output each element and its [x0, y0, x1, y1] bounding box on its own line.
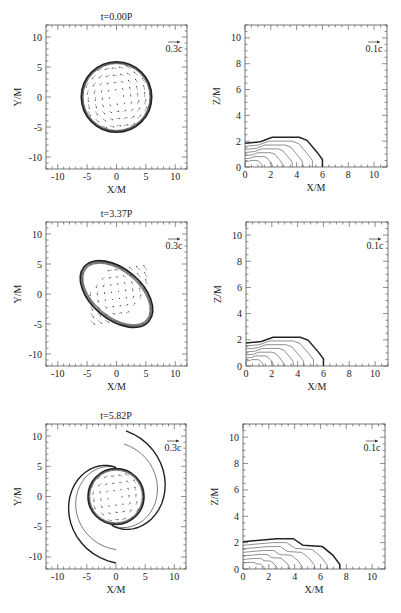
x-tick-label: 2: [268, 169, 273, 180]
x-tick-label: 0: [114, 571, 119, 582]
x-tick-label: 8: [344, 571, 349, 582]
density-contour: [246, 345, 303, 366]
x-tick-label: 8: [346, 169, 351, 180]
y-tick-label: 2: [237, 334, 242, 345]
y-tick-label: -10: [29, 152, 42, 163]
y-tick-label: 4: [234, 511, 239, 522]
density-contour: [243, 551, 302, 569]
x-tick-label: -5: [83, 368, 91, 379]
y-tick-label: 8: [234, 458, 239, 469]
y-tick-label: 0: [234, 564, 239, 575]
xz-panel-2: 02468100246810X/MZ/M0.1c: [212, 222, 388, 392]
density-contour: [83, 64, 150, 131]
xy-panel-1: t=0.00P-10-50510-10-50510X/MY/M0.3c: [12, 11, 187, 195]
x-tick-label: 10: [170, 171, 180, 182]
y-tick-label: 4: [236, 110, 241, 121]
x-tick-label: 0: [241, 571, 246, 582]
x-tick-label: 4: [295, 368, 300, 379]
x-tick-label: -5: [83, 171, 91, 182]
x-tick-label: 4: [292, 571, 297, 582]
y-tick-label: -5: [34, 122, 42, 133]
x-tick-label: 10: [169, 571, 179, 582]
x-axis-label: X/M: [107, 184, 126, 195]
y-axis-label: Z/M: [212, 285, 223, 303]
x-tick-label: -10: [51, 571, 64, 582]
x-tick-label: 4: [294, 169, 299, 180]
density-contour: [243, 554, 289, 569]
x-tick-label: 6: [320, 169, 325, 180]
x-tick-label: -5: [83, 571, 91, 582]
vector-scale-label: 0.1c: [366, 43, 384, 54]
vector-scale-label: 0.3c: [165, 442, 183, 453]
panel-title: t=5.82P: [100, 410, 132, 421]
density-contour: [69, 248, 164, 339]
xy-panel-3: t=5.82P-10-50510-10-50510X/MY/M0.3c: [12, 410, 186, 595]
y-tick-label: 0: [236, 162, 241, 173]
x-tick-label: 10: [170, 368, 180, 379]
x-tick-label: 10: [370, 368, 380, 379]
x-axis-label: X/M: [308, 381, 327, 392]
vector-scale-label: 0.1c: [364, 442, 382, 453]
x-tick-label: 0: [114, 368, 119, 379]
y-tick-label: 2: [236, 136, 241, 147]
x-tick-label: -10: [51, 171, 64, 182]
y-tick-label: 2: [234, 537, 239, 548]
x-tick-label: 5: [143, 571, 148, 582]
x-tick-label: 6: [321, 368, 326, 379]
density-contour: [89, 470, 143, 524]
y-tick-label: 5: [37, 259, 42, 270]
panel-title: t=0.00P: [101, 11, 133, 22]
y-tick-label: 8: [236, 58, 241, 69]
density-contour: [245, 145, 302, 167]
x-axis-label: X/M: [107, 584, 126, 595]
density-contour: [243, 539, 340, 569]
density-contour: [88, 469, 144, 525]
x-axis-label: X/M: [305, 584, 324, 595]
density-contour: [245, 149, 292, 167]
y-tick-label: 0: [37, 491, 42, 502]
y-tick-label: 6: [234, 484, 239, 495]
y-tick-label: 5: [37, 461, 42, 472]
density-contour: [89, 469, 144, 524]
y-axis-label: Y/M: [12, 87, 23, 106]
x-tick-label: 5: [143, 171, 148, 182]
y-tick-label: 0: [37, 289, 42, 300]
vector-scale-label: 0.3c: [166, 240, 184, 251]
density-contour: [243, 558, 277, 569]
x-tick-label: 6: [318, 571, 323, 582]
y-tick-label: 10: [232, 230, 242, 241]
x-tick-label: 5: [143, 368, 148, 379]
y-tick-label: 10: [32, 431, 42, 442]
panel-title: t=3.37P: [101, 208, 133, 219]
figure: t=0.00P-10-50510-10-50510X/MY/M0.3c02468…: [0, 0, 401, 613]
y-tick-label: 8: [237, 256, 242, 267]
y-tick-label: 0: [237, 361, 242, 372]
y-tick-label: 10: [231, 32, 241, 43]
x-axis-label: X/M: [107, 381, 126, 392]
density-contour: [246, 360, 263, 366]
y-tick-label: -5: [34, 521, 42, 532]
y-axis-label: Y/M: [12, 487, 23, 506]
x-tick-label: 8: [347, 368, 352, 379]
vector-scale-label: 0.3c: [166, 43, 184, 54]
vector-scale-label: 0.1c: [367, 240, 385, 251]
y-tick-label: -10: [29, 349, 42, 360]
density-contour: [245, 153, 282, 167]
y-tick-label: -10: [29, 551, 42, 562]
density-contour: [243, 562, 264, 569]
x-tick-label: 10: [367, 571, 377, 582]
density-contour: [246, 348, 293, 366]
x-tick-label: 0: [244, 368, 249, 379]
y-tick-label: 5: [37, 62, 42, 73]
x-axis-label: X/M: [307, 182, 326, 193]
y-tick-label: 10: [229, 432, 239, 443]
x-tick-label: 2: [266, 571, 271, 582]
density-contour: [245, 157, 272, 167]
y-tick-label: 4: [237, 308, 242, 319]
xy-panel-2: t=3.37P-10-50510-10-50510X/MY/M0.3c: [12, 208, 187, 392]
x-tick-label: 0: [114, 171, 119, 182]
density-contour: [68, 247, 165, 340]
y-axis-label: Z/M: [209, 488, 220, 506]
y-tick-label: 6: [237, 282, 242, 293]
y-axis-label: Z/M: [211, 87, 222, 105]
